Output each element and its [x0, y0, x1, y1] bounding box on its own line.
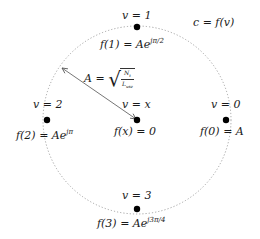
node-v2-value: f(2) = Aejπ [16, 126, 73, 142]
node-vx-label: v = x [122, 99, 151, 111]
node-dot-v0 [223, 117, 229, 123]
node-v1-value: f(1) = Aejπ/2 [100, 35, 164, 51]
node-v0-value: f(0) = A [200, 126, 244, 138]
node-v3-value: f(3) = Aej3π/4 [97, 214, 165, 230]
node-dot-v3 [134, 206, 140, 212]
mapping-label: c = f(v) [193, 17, 234, 29]
amplitude-formula: A = √NtLuse [84, 68, 135, 90]
node-v0-label: v = 0 [211, 99, 240, 111]
node-v3-label: v = 3 [122, 190, 151, 202]
node-dot-v1 [134, 24, 140, 30]
node-v2-label: v = 2 [33, 99, 62, 111]
node-dot-v2 [44, 117, 50, 123]
node-v1-label: v = 1 [122, 10, 151, 22]
node-dot-vx [134, 117, 140, 123]
node-vx-value: f(x) = 0 [114, 126, 156, 138]
